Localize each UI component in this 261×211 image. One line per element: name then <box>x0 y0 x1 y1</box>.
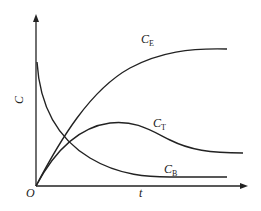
series-ce-subscript: E <box>149 39 154 48</box>
origin-label: O <box>26 186 35 200</box>
x-axis-arrow-icon <box>240 183 248 189</box>
x-axis-label: t <box>139 186 143 200</box>
y-axis-label: C <box>12 95 26 104</box>
chart-canvas: C O t C E C T C B <box>0 0 261 211</box>
y-axis-arrow-icon <box>33 14 39 22</box>
series-ce-line <box>36 49 227 186</box>
concentration-time-chart: C O t C E C T C B <box>0 0 261 211</box>
series-ct-subscript: T <box>161 123 166 132</box>
series-cb-line <box>37 62 227 177</box>
series-cb-subscript: B <box>172 169 177 178</box>
